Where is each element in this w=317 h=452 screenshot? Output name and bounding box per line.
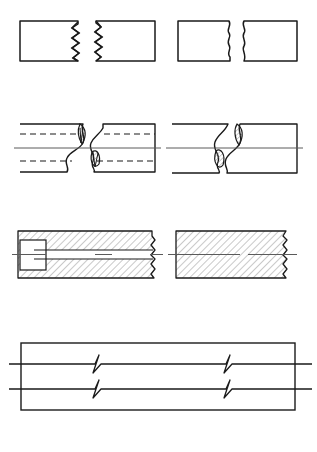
cylindrical-leaf-lower-left xyxy=(215,150,224,167)
caption-tubular-section: TUBULAR SECTION (Metal) xyxy=(10,285,170,313)
metal-break-right-body xyxy=(243,21,297,61)
caption-rectangular-long-break: RECTANGULAR: LONG BREAK (Any material) xyxy=(48,416,272,446)
figure-rectangular-long-break xyxy=(9,343,312,410)
metal-break-left-body xyxy=(178,21,230,61)
long-break-upper-line xyxy=(9,355,312,373)
wood-break-right-body xyxy=(95,21,155,61)
caption-rectangular-metal: RECTANGULAR (Metal) xyxy=(178,66,298,94)
figure-rectangular-wood xyxy=(20,21,155,61)
figure-tubular-metal xyxy=(14,124,161,172)
wood-zigzag-left xyxy=(72,22,79,61)
caption-cylindrical-section: CYLINDRICAL SECTION (Metal) xyxy=(152,285,312,313)
figure-rectangular-metal xyxy=(178,21,297,61)
long-break-outer-rect xyxy=(21,343,295,410)
break-symbols-drawing: RECTANGULAR (Wood) RECTANGULAR (Metal) xyxy=(0,0,317,452)
caption-rectangular-wood: RECTANGULAR (Wood) xyxy=(20,66,156,94)
long-break-lower-line xyxy=(9,380,312,398)
caption-tubular-metal: TUBULAR (Metal) xyxy=(18,178,158,206)
cylindrical-leaf-upper-right xyxy=(235,124,242,145)
figure-cylindrical-metal xyxy=(166,124,303,173)
figure-tubular-section xyxy=(12,229,163,281)
figure-cylindrical-section xyxy=(168,229,297,281)
wood-break-left-body xyxy=(20,21,79,61)
wood-zigzag-right xyxy=(95,21,102,61)
caption-cylindrical-metal: CYLINDRICAL (Metal) xyxy=(164,178,304,206)
